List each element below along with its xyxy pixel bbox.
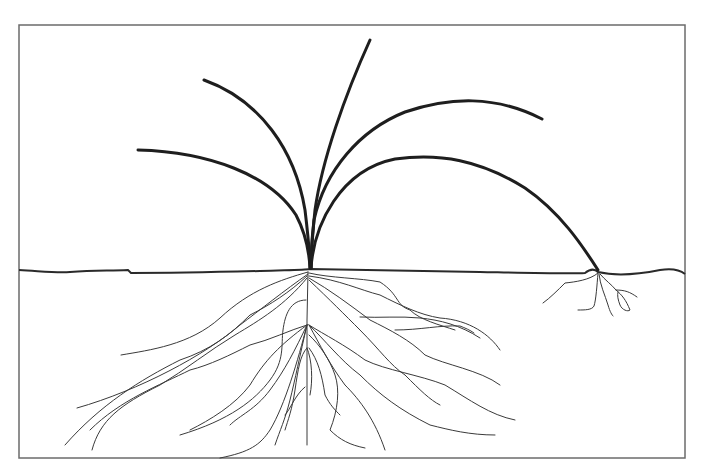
illustration-svg (0, 0, 702, 475)
root-system-runner-node (543, 273, 637, 316)
runner-stolon (311, 157, 598, 270)
blade-left (204, 80, 310, 268)
grass-blades (138, 40, 598, 270)
soil-surface-line (19, 269, 685, 274)
plant-root-illustration (0, 0, 702, 475)
root-system-main (65, 272, 515, 458)
blade-center (311, 40, 370, 268)
blade-far-left (138, 150, 310, 268)
